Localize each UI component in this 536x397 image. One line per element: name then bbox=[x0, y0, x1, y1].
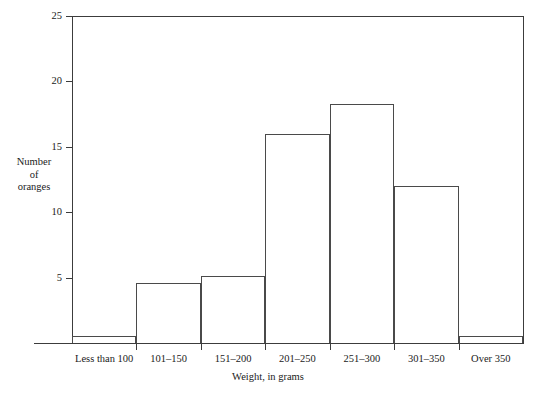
y-axis-tick-label-20: 20 bbox=[34, 76, 62, 87]
y-axis-title-line-2: of bbox=[4, 169, 64, 182]
x-axis-tick-label: 301–350 bbox=[394, 353, 458, 365]
y-axis-tick-5 bbox=[66, 278, 73, 279]
histogram-bar bbox=[459, 336, 523, 343]
x-axis-tick bbox=[394, 344, 395, 350]
y-axis-title: Number of oranges bbox=[4, 156, 64, 194]
histogram-bar bbox=[201, 276, 265, 343]
x-axis-tick-label: 151–200 bbox=[201, 353, 265, 365]
x-axis-tick-label: 201–250 bbox=[265, 353, 329, 365]
histogram-bar bbox=[72, 336, 136, 343]
y-axis-tick-10 bbox=[66, 212, 73, 213]
y-axis-tick-label-10: 10 bbox=[34, 207, 62, 218]
x-axis-tick bbox=[459, 344, 460, 350]
plot-frame-right bbox=[523, 16, 524, 344]
x-axis-tick bbox=[330, 344, 331, 350]
x-axis-tick-label: Less than 100 bbox=[72, 353, 136, 365]
y-axis-title-line-1: Number bbox=[4, 156, 64, 169]
y-axis-title-line-3: oranges bbox=[4, 181, 64, 194]
y-axis-tick-15 bbox=[66, 147, 73, 148]
plot-frame-top bbox=[72, 16, 524, 17]
x-axis-tick-label: 101–150 bbox=[136, 353, 200, 365]
x-axis-tick bbox=[265, 344, 266, 350]
y-axis-tick-label-25: 25 bbox=[34, 11, 62, 22]
x-axis-title: Weight, in grams bbox=[0, 371, 536, 382]
histogram-bar bbox=[265, 134, 329, 343]
x-axis-tick bbox=[201, 344, 202, 350]
y-axis-tick-label-15: 15 bbox=[34, 142, 62, 153]
histogram-figure: Number of oranges 510152025 Less than 10… bbox=[0, 0, 536, 397]
y-axis-line bbox=[72, 16, 73, 344]
y-axis-tick-20 bbox=[66, 81, 73, 82]
histogram-bar bbox=[136, 283, 200, 343]
x-axis-line bbox=[34, 343, 524, 344]
histogram-bar bbox=[394, 186, 458, 343]
y-axis-tick-label-5: 5 bbox=[34, 273, 62, 284]
x-axis-tick-label: 251–300 bbox=[330, 353, 394, 365]
histogram-bar bbox=[330, 104, 394, 343]
x-axis-tick-label: Over 350 bbox=[459, 353, 523, 365]
y-axis-tick-25 bbox=[66, 16, 73, 17]
x-axis-tick bbox=[136, 344, 137, 350]
